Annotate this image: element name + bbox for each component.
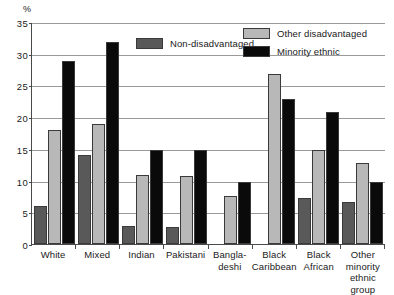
bar <box>282 99 295 244</box>
bar <box>78 155 91 244</box>
bar <box>342 202 355 244</box>
bar <box>312 150 325 245</box>
bar <box>326 112 339 244</box>
x-axis-category-label: Pakistani <box>164 249 208 295</box>
bar <box>106 42 119 244</box>
legend-swatch-other-disadvantaged <box>243 28 270 39</box>
bar <box>166 227 179 244</box>
x-axis-category-label: Black Caribbean <box>252 249 297 295</box>
legend-item-other-disadvantaged: Other disadvantaged <box>243 28 367 39</box>
x-axis-category-label: White <box>31 249 75 295</box>
x-axis-category-label: Bangla- deshi <box>208 249 252 295</box>
legend-item-non-disadvantaged: Non-disadvantaged <box>136 38 254 49</box>
x-axis-category-label: Indian <box>119 249 163 295</box>
bar <box>224 196 237 244</box>
bar <box>34 206 47 244</box>
bar <box>194 150 207 245</box>
legend-item-minority-ethnic: Minority ethnic <box>243 46 340 57</box>
bar-group <box>32 23 76 244</box>
legend-label-non-disadvantaged: Non-disadvantaged <box>170 38 254 49</box>
bar <box>92 124 105 245</box>
bar <box>122 226 135 244</box>
y-axis-tick-label: 30 <box>17 49 28 60</box>
x-axis-category-label: Other minority ethnic group <box>341 249 385 295</box>
y-axis-tick-label: 10 <box>17 176 28 187</box>
legend-label-other-disadvantaged: Other disadvantaged <box>277 28 367 39</box>
y-axis-tick-label: 15 <box>17 144 28 155</box>
bar <box>136 175 149 244</box>
bar <box>298 198 311 244</box>
bar <box>356 163 369 244</box>
bar-group <box>341 23 385 244</box>
y-axis-tick-label: 5 <box>22 208 28 219</box>
y-axis-tick-label: 25 <box>17 81 28 92</box>
x-axis-category-label: Black African <box>297 249 341 295</box>
bar <box>370 182 383 244</box>
legend-label-minority-ethnic: Minority ethnic <box>277 46 340 57</box>
y-axis-tick-label: 35 <box>17 18 28 29</box>
bar-group <box>164 23 208 244</box>
bar <box>180 176 193 245</box>
y-axis-tick-label: 0 <box>22 240 28 251</box>
y-axis-unit-label: % <box>23 4 31 14</box>
bar <box>48 130 61 244</box>
y-axis-tick-label: 20 <box>17 113 28 124</box>
legend-swatch-non-disadvantaged <box>136 38 163 49</box>
bar <box>150 150 163 245</box>
legend-swatch-minority-ethnic <box>243 46 270 57</box>
x-axis-labels: WhiteMixedIndianPakistaniBangla- deshiBl… <box>31 249 385 295</box>
bar-group <box>120 23 164 244</box>
bar-group <box>76 23 120 244</box>
y-axis-tick-mark <box>29 245 33 246</box>
bar <box>268 74 281 244</box>
bar <box>238 182 251 244</box>
x-axis-category-label: Mixed <box>75 249 119 295</box>
bar <box>62 61 75 244</box>
